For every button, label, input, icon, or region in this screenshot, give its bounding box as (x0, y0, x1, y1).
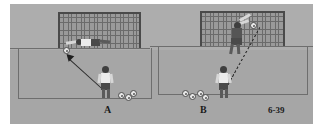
panel-caption-b: B (200, 104, 207, 115)
keeper-a-legs (99, 39, 110, 43)
goalkeeper-diving (66, 37, 110, 51)
keeper-b-leg-right (237, 44, 241, 54)
ball-b-1 (182, 90, 189, 97)
ball-b-4 (202, 94, 209, 101)
shooter-b-head (220, 66, 227, 73)
goal-post-right-a (139, 12, 141, 48)
goal-post-left-a (58, 12, 60, 48)
shooter-b-leg-right (225, 89, 228, 98)
shooter-a-leg-left (102, 89, 105, 98)
ball-a-3 (130, 90, 137, 97)
shooter-b-leg-left (220, 89, 223, 98)
shooter-front-view (98, 66, 114, 98)
shooter-a-leg-right (107, 89, 110, 98)
shooter-b-arm-right (227, 74, 232, 83)
figure-number: 6-39 (268, 105, 285, 115)
crossbar-b (200, 11, 285, 13)
shooter-a-arm-right (109, 74, 113, 83)
soccer-drill-figure: A (0, 0, 323, 130)
ball-b-2 (189, 93, 196, 100)
shooter-rear-view (216, 66, 232, 98)
goal-post-left-b (200, 11, 202, 46)
goal-post-right-b (283, 11, 285, 46)
ball-a-1 (118, 92, 125, 99)
ball-in-flight-b (250, 22, 257, 29)
crossbar-a (58, 12, 141, 14)
keeper-b-leg-left (229, 44, 234, 54)
panel-caption-a: A (104, 104, 111, 115)
illustration-plate: A (10, 4, 313, 124)
shooter-a-head (102, 66, 109, 73)
